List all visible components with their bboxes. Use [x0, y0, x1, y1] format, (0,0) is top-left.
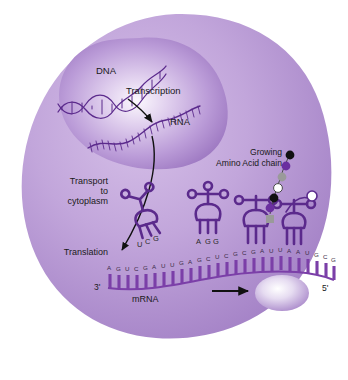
label-mrna: mRNA: [132, 294, 159, 304]
figure-page: U C G A G G: [0, 0, 348, 380]
svg-text:U: U: [170, 261, 174, 268]
svg-text:G: G: [251, 248, 256, 255]
svg-text:C: C: [224, 252, 229, 259]
svg-text:U: U: [215, 253, 219, 260]
label-translation: Translation: [24, 247, 108, 257]
svg-text:U: U: [278, 246, 282, 253]
label-three-prime: 3': [94, 283, 100, 293]
svg-text:G: G: [153, 234, 159, 243]
svg-text:U: U: [305, 249, 309, 256]
svg-text:G: G: [116, 265, 121, 272]
label-rna: RNA: [170, 117, 190, 128]
gene-expression-figure: U C G A G G: [0, 0, 348, 345]
ribosome: [255, 275, 309, 311]
svg-text:G: G: [213, 237, 219, 246]
svg-text:C: C: [134, 265, 139, 272]
svg-text:G: G: [331, 256, 336, 263]
label-transport-to-cytoplasm: Transport to cytoplasm: [30, 176, 108, 206]
page-footer: 47 Gene Expression: [0, 345, 348, 380]
svg-text:G: G: [179, 259, 184, 266]
trna-middle-anticodon: A G G: [196, 237, 219, 246]
svg-text:C: C: [206, 255, 211, 262]
svg-text:G: G: [197, 256, 202, 263]
label-transcription: Transcription: [126, 86, 181, 97]
svg-text:U: U: [269, 247, 273, 254]
svg-text:G: G: [205, 237, 211, 246]
svg-text:C: C: [323, 253, 328, 260]
svg-text:U: U: [137, 240, 142, 249]
svg-text:G: G: [314, 251, 319, 258]
svg-text:G: G: [143, 264, 148, 271]
svg-text:U: U: [125, 265, 129, 272]
label-growing: Growing: [186, 148, 282, 158]
label-five-prime: 5': [322, 284, 328, 294]
svg-text:U: U: [161, 262, 165, 269]
svg-text:C: C: [145, 237, 151, 246]
label-dna: DNA: [96, 66, 116, 77]
svg-text:C: C: [242, 249, 247, 256]
svg-text:A: A: [196, 237, 201, 246]
svg-text:G: G: [233, 250, 238, 257]
label-amino-acid-chain: Amino Acid chain: [156, 159, 282, 169]
